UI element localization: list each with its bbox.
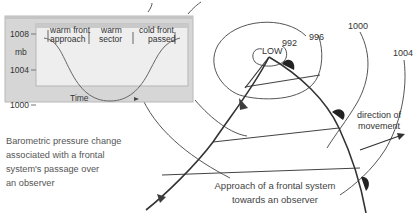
- y-axis-label: mb: [15, 47, 27, 57]
- low-label: LOW: [262, 46, 283, 56]
- isobar-top-left: [148, 3, 152, 12]
- isobar-label-992: 992: [282, 38, 297, 48]
- isobar-left-outer: [143, 100, 230, 178]
- frontal-system-diagram: 992 996 1000 1004 LOW 1008 mb 1: [0, 0, 418, 213]
- phase-warm-front-2: approach: [50, 34, 86, 44]
- isobar-top-right: [188, 2, 201, 14]
- phase-cold-front-2: passed: [148, 34, 176, 44]
- isobar-label-1000: 1000: [348, 21, 368, 31]
- isobar-label-996: 996: [309, 32, 324, 42]
- caption-line: an observer: [6, 176, 126, 190]
- direction-label-line: direction of: [344, 110, 414, 121]
- caption-line: Barometric pressure change: [6, 134, 126, 148]
- x-axis-label: Time: [70, 93, 89, 103]
- approach-label-line: Approach of a frontal system: [205, 179, 345, 193]
- caption-line: system's passage over: [6, 162, 126, 176]
- phase-warm-sector-2: sector: [99, 34, 122, 44]
- approach-label: Approach of a frontal system towards an …: [205, 179, 345, 207]
- y-tick-1000: 1000: [10, 100, 29, 110]
- y-tick-1004: 1004: [10, 65, 29, 75]
- caption-line: associated with a frontal: [6, 148, 126, 162]
- inset-caption: Barometric pressure change associated wi…: [6, 134, 126, 190]
- isobar-label-1004: 1004: [393, 48, 413, 58]
- approach-label-line: towards an observer: [205, 193, 345, 207]
- direction-label: direction of movement: [344, 110, 414, 132]
- direction-label-line: movement: [344, 121, 414, 132]
- direction-arrow: [360, 133, 405, 150]
- y-tick-1008: 1008: [10, 29, 29, 39]
